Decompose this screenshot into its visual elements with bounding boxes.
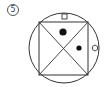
large-dot-icon [59,28,66,35]
small-square-icon [62,14,67,19]
small-dot-icon [76,45,81,50]
puzzle-figure [0,0,104,87]
small-hexagon-icon [92,45,97,51]
